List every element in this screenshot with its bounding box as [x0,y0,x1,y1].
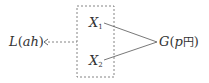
node-x2-main: X [89,53,98,68]
node-l-close: ) [39,34,44,49]
arrowhead-icon [44,39,48,45]
node-g-p-yen: G(p円) [159,35,199,48]
node-x1-sub: 1 [98,23,102,31]
node-x1: X1 [89,16,103,31]
node-g-close: ) [194,34,199,49]
node-g-unit: 円 [183,36,194,49]
edge-x2-g [104,42,157,60]
node-l-ah: L(ah) [9,35,44,48]
node-l-arg: ah [23,34,39,49]
node-l-main: L [9,34,18,49]
node-x2: X2 [89,54,103,69]
node-g-main: G [159,34,169,49]
node-x2-sub: 2 [98,61,102,69]
node-x1-main: X [89,15,98,30]
node-g-arg: p [174,34,182,49]
edge-x1-g [104,23,157,42]
